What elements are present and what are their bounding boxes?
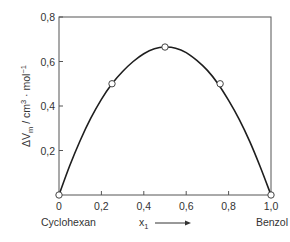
x-tick-label: 0,6 — [179, 200, 194, 212]
y-tick-label: 0,4 — [40, 100, 55, 112]
y-tick-label: 0,2 — [40, 145, 55, 157]
x-right-end-label: Benzol — [256, 216, 288, 228]
data-point-marker — [162, 44, 168, 50]
x-axis-label: x1 — [139, 216, 148, 231]
x-tick-label: 0 — [56, 200, 62, 212]
data-point-marker — [56, 192, 62, 198]
data-point-marker — [109, 81, 115, 87]
data-point-marker — [217, 81, 223, 87]
y-axis-ticks: 0,20,40,60,8 — [40, 11, 63, 157]
y-axis-label: ΔVm / cm3 · mol−1 — [19, 65, 35, 147]
data-point-marker — [268, 192, 274, 198]
x-tick-label: 0,8 — [221, 200, 236, 212]
chart: 0,20,40,60,8 00,20,40,60,81,0 ΔVm / cm3 … — [0, 0, 290, 242]
x-axis-ticks: 00,20,40,60,81,0 — [56, 191, 278, 212]
x-direction-arrow-icon — [155, 221, 191, 226]
x-tick-label: 0,2 — [94, 200, 109, 212]
x-tick-label: 0,4 — [136, 200, 151, 212]
y-tick-label: 0,8 — [40, 11, 55, 23]
x-tick-label: 1,0 — [264, 200, 279, 212]
y-tick-label: 0,6 — [40, 56, 55, 68]
fit-curve — [59, 47, 271, 195]
x-left-end-label: Cyclohexan — [41, 216, 96, 228]
